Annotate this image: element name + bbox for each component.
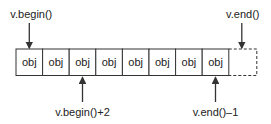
cell-label: obj <box>128 56 143 68</box>
cell-label: obj <box>49 56 64 68</box>
vector-cells: objobjobjobjobjobjobjobj <box>16 49 257 76</box>
cell-label: obj <box>208 56 223 68</box>
cell-label: obj <box>155 56 170 68</box>
cell-label: obj <box>75 56 90 68</box>
cell-label: obj <box>102 56 117 68</box>
pointer-label: v.end()–1 <box>193 106 239 118</box>
pointer-label: v.begin()+2 <box>55 106 110 118</box>
pointer-label: v.end() <box>226 8 259 20</box>
vector-iterator-diagram: objobjobjobjobjobjobjobj v.begin()v.end(… <box>0 0 271 124</box>
pointer-label: v.begin() <box>10 8 52 20</box>
cell-label: obj <box>182 56 197 68</box>
past-the-end-cell <box>229 49 257 76</box>
cell-label: obj <box>22 56 37 68</box>
